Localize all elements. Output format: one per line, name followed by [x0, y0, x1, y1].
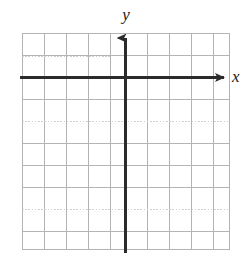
coordinate-plane-svg — [0, 0, 251, 264]
y-axis-label: y — [117, 6, 135, 23]
coordinate-grid-figure: y x — [0, 0, 251, 264]
x-axis-label: x — [232, 68, 250, 85]
